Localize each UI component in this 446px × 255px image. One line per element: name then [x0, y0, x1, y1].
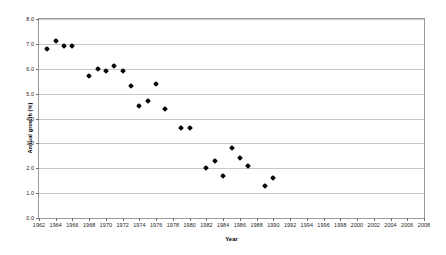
y-tick-label: 6.0: [26, 66, 34, 72]
x-tick-mark: [391, 218, 392, 221]
x-tick-mark: [357, 218, 358, 221]
data-point: [178, 126, 184, 132]
x-tick-mark: [424, 218, 425, 221]
x-tick-mark: [89, 218, 90, 221]
plot-area: 0.01.02.03.04.05.06.07.08.0 196219641966…: [38, 18, 425, 219]
x-tick-mark: [307, 218, 308, 221]
x-tick-label: 1984: [217, 222, 229, 228]
x-tick-label: 1972: [116, 222, 128, 228]
y-tick-mark: [36, 44, 39, 45]
x-tick-label: 2004: [384, 222, 396, 228]
data-point: [61, 44, 67, 50]
data-point: [103, 68, 109, 74]
x-tick-label: 1990: [267, 222, 279, 228]
data-point: [237, 155, 243, 161]
data-point: [153, 81, 159, 87]
data-point: [212, 158, 218, 164]
scatter-chart: Annual growth (%) 0.01.02.03.04.05.06.07…: [0, 0, 446, 255]
x-tick-mark: [56, 218, 57, 221]
data-point: [229, 146, 235, 152]
gridline: [39, 19, 424, 20]
data-point: [95, 66, 101, 72]
x-tick-mark: [407, 218, 408, 221]
x-tick-label: 1998: [334, 222, 346, 228]
gridline: [39, 119, 424, 120]
x-tick-mark: [340, 218, 341, 221]
data-point: [137, 103, 143, 109]
x-tick-label: 1980: [183, 222, 195, 228]
data-point: [220, 173, 226, 179]
x-tick-label: 1964: [50, 222, 62, 228]
x-tick-mark: [374, 218, 375, 221]
data-point: [145, 98, 151, 104]
x-tick-label: 1992: [284, 222, 296, 228]
x-tick-label: 1976: [150, 222, 162, 228]
x-tick-mark: [156, 218, 157, 221]
x-tick-mark: [240, 218, 241, 221]
x-tick-mark: [123, 218, 124, 221]
x-tick-label: 1994: [301, 222, 313, 228]
x-tick-label: 1966: [66, 222, 78, 228]
x-tick-mark: [72, 218, 73, 221]
x-tick-label: 2002: [368, 222, 380, 228]
x-axis-title: Year: [38, 236, 425, 242]
data-point: [162, 106, 168, 112]
x-tick-mark: [257, 218, 258, 221]
x-tick-mark: [324, 218, 325, 221]
x-tick-label: 1982: [200, 222, 212, 228]
y-tick-label: 4.0: [26, 116, 34, 122]
x-tick-mark: [223, 218, 224, 221]
x-tick-label: 1996: [317, 222, 329, 228]
x-tick-mark: [39, 218, 40, 221]
y-tick-mark: [36, 69, 39, 70]
gridline: [39, 44, 424, 45]
gridline: [39, 94, 424, 95]
gridline: [39, 193, 424, 194]
x-tick-mark: [290, 218, 291, 221]
y-tick-label: 5.0: [26, 91, 34, 97]
y-tick-label: 0.0: [26, 215, 34, 221]
x-tick-label: 2006: [401, 222, 413, 228]
y-tick-mark: [36, 119, 39, 120]
x-tick-mark: [190, 218, 191, 221]
x-tick-mark: [106, 218, 107, 221]
y-tick-label: 7.0: [26, 41, 34, 47]
x-tick-mark: [139, 218, 140, 221]
x-tick-label: 1962: [33, 222, 45, 228]
x-tick-label: 2000: [351, 222, 363, 228]
x-tick-mark: [173, 218, 174, 221]
y-tick-mark: [36, 19, 39, 20]
data-point: [271, 175, 277, 181]
data-point: [45, 46, 51, 52]
data-point: [128, 83, 134, 89]
x-tick-label: 1986: [234, 222, 246, 228]
x-tick-label: 1970: [100, 222, 112, 228]
y-tick-label: 2.0: [26, 165, 34, 171]
data-point: [187, 126, 193, 132]
y-tick-label: 8.0: [26, 16, 34, 22]
y-tick-mark: [36, 168, 39, 169]
x-tick-label: 1978: [167, 222, 179, 228]
y-tick-mark: [36, 94, 39, 95]
y-tick-label: 1.0: [26, 190, 34, 196]
x-tick-label: 2008: [418, 222, 430, 228]
y-tick-mark: [36, 193, 39, 194]
data-point: [120, 68, 126, 74]
data-point: [204, 165, 210, 171]
gridline: [39, 168, 424, 169]
y-tick-mark: [36, 143, 39, 144]
data-point: [262, 183, 268, 189]
data-point: [86, 73, 92, 79]
y-tick-label: 3.0: [26, 140, 34, 146]
x-tick-label: 1974: [133, 222, 145, 228]
x-tick-mark: [273, 218, 274, 221]
x-tick-label: 1988: [250, 222, 262, 228]
x-tick-mark: [206, 218, 207, 221]
x-tick-label: 1968: [83, 222, 95, 228]
